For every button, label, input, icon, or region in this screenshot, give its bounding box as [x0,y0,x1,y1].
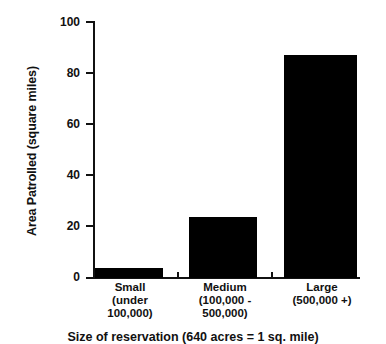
bar-medium [189,217,257,278]
bar-large [284,55,357,278]
x-category-name-medium: Medium [185,281,265,294]
x-category-sub-small-1: (under [95,294,165,307]
x-category-label-medium: Medium (100,000 - 500,000) [185,281,265,321]
plot-area [93,22,359,278]
y-tick-label-20: 20 [40,220,80,232]
y-tick-label-80: 80 [40,67,80,79]
x-axis-caption: Size of reservation (640 acres = 1 sq. m… [0,330,386,344]
y-tick-mark-0 [86,277,93,279]
y-axis-title: Area Patrolled (square miles) [25,36,39,266]
x-category-label-small: Small (under 100,000) [95,281,165,321]
y-tick-label-100: 100 [40,16,80,28]
x-category-sub-medium-2: 500,000) [185,307,265,320]
y-tick-mark-80 [86,72,93,74]
y-tick-mark-60 [86,123,93,125]
y-tick-mark-40 [86,174,93,176]
bar-small [95,268,163,278]
x-category-sub-large-1: (500,000 +) [282,294,362,307]
y-tick-label-60: 60 [40,118,80,130]
x-category-sub-medium-1: (100,000 - [185,294,265,307]
y-tick-mark-100 [86,21,93,23]
x-category-label-large: Large (500,000 +) [282,281,362,307]
y-tick-mark-20 [86,225,93,227]
y-tick-label-0: 0 [40,271,80,283]
y-tick-label-40: 40 [40,169,80,181]
x-category-name-large: Large [282,281,362,294]
x-category-sub-small-2: 100,000) [95,307,165,320]
x-category-name-small: Small [95,281,165,294]
